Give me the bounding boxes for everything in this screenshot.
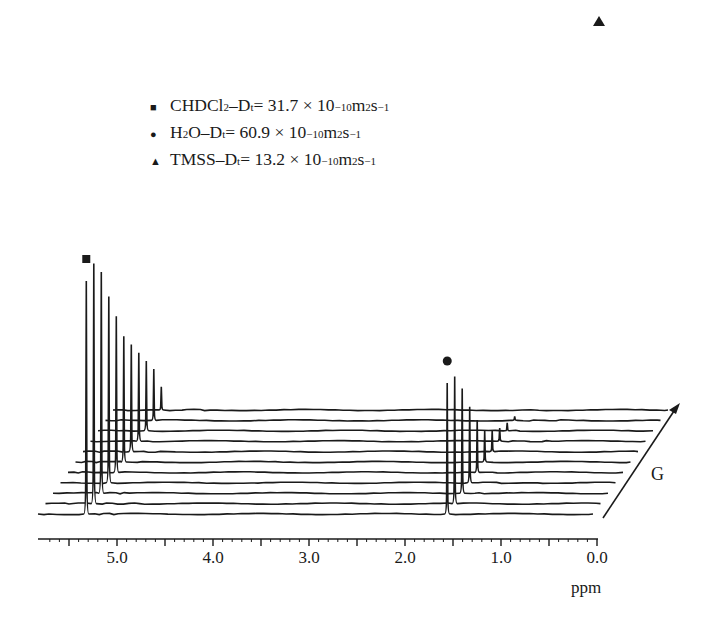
legend-row-tmss: ▲ TMSS–Dt = 13.2 × 10−10 m2s−1 bbox=[150, 147, 389, 174]
legend-value: = 13.2 × 10 bbox=[240, 147, 321, 172]
legend-exp: −1 bbox=[364, 149, 376, 174]
legend-exp: −10 bbox=[306, 122, 323, 147]
x-tick-label: 3.0 bbox=[298, 548, 319, 568]
legend-mid: O–D bbox=[188, 120, 222, 145]
peak-markers bbox=[82, 16, 605, 366]
triangle-marker-icon: ▲ bbox=[150, 149, 164, 174]
legend-species: CHDCl bbox=[170, 93, 223, 118]
legend-row-chdcl2: ■ CHDCl2–Dt = 31.7 × 10−10 m2s−1 bbox=[150, 93, 389, 120]
gradient-axis-label: G bbox=[651, 464, 664, 485]
legend-row-h2o: ● H2O–Dt = 60.9 × 10−10 m2s−1 bbox=[150, 120, 389, 147]
legend-unit: m bbox=[323, 120, 337, 145]
x-tick-label: 2.0 bbox=[394, 548, 415, 568]
spectrum-trace bbox=[113, 387, 668, 411]
spectrum-trace bbox=[91, 353, 646, 442]
legend-unit: m bbox=[352, 93, 366, 118]
x-axis-unit-label: ppm bbox=[571, 578, 601, 598]
spectrum-trace bbox=[53, 272, 608, 494]
x-tick-label: 4.0 bbox=[202, 548, 223, 568]
spectrum-trace bbox=[76, 336, 631, 462]
legend-unit: s bbox=[371, 93, 378, 118]
legend: ■ CHDCl2–Dt = 31.7 × 10−10 m2s−1 ● H2O–D… bbox=[150, 93, 389, 174]
legend-value: = 60.9 × 10 bbox=[225, 120, 306, 145]
legend-exp: −10 bbox=[334, 95, 351, 120]
legend-unit: s bbox=[358, 147, 365, 172]
legend-species: TMSS bbox=[170, 147, 216, 172]
legend-mid: –D bbox=[216, 147, 237, 172]
arrow-head-icon bbox=[669, 403, 680, 414]
circle-marker-icon bbox=[443, 357, 452, 366]
spectrum-trace bbox=[38, 281, 593, 515]
legend-exp: −1 bbox=[378, 95, 390, 120]
spectrum-trace bbox=[106, 369, 661, 421]
legend-exp: −10 bbox=[321, 149, 338, 174]
x-tick-label: 1.0 bbox=[490, 548, 511, 568]
x-tick-label: 0.0 bbox=[586, 548, 607, 568]
legend-species: H bbox=[170, 120, 183, 145]
circle-marker-icon: ● bbox=[150, 122, 164, 147]
spectrum-trace bbox=[61, 296, 616, 483]
legend-unit: m bbox=[338, 147, 352, 172]
legend-value: = 31.7 × 10 bbox=[253, 93, 334, 118]
triangle-marker-icon bbox=[593, 16, 605, 26]
legend-exp: −1 bbox=[349, 122, 361, 147]
spectrum-traces bbox=[38, 264, 668, 516]
x-tick-label: 5.0 bbox=[106, 548, 127, 568]
legend-unit: s bbox=[343, 120, 350, 145]
spectrum-trace bbox=[68, 316, 623, 473]
legend-mid: –D bbox=[229, 93, 250, 118]
spectrum-trace bbox=[46, 264, 601, 505]
square-marker-icon: ■ bbox=[150, 95, 164, 120]
square-marker-icon bbox=[82, 255, 90, 263]
spectrum-trace bbox=[83, 344, 638, 452]
ppm-axis bbox=[38, 539, 598, 546]
